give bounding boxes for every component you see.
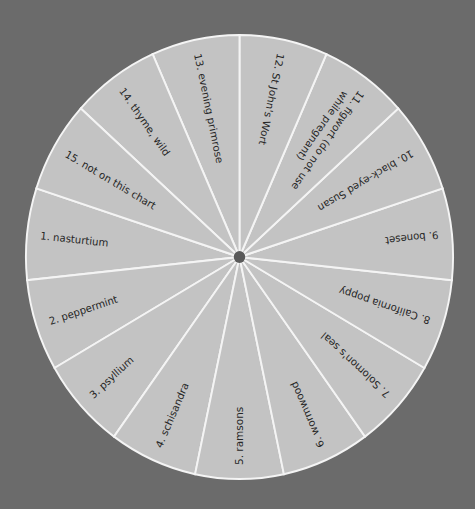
herb-wheel: 1. nasturtium2. peppermint3. psyllium4. …: [0, 0, 475, 509]
center-hub: [234, 251, 246, 263]
segment-label-5: 5. ramsons: [234, 407, 246, 465]
